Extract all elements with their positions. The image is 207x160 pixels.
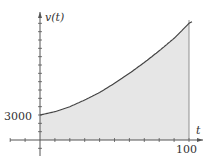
area-chart: v(t) t 3000 100 <box>0 0 207 160</box>
y-axis-label: v(t) <box>45 11 64 24</box>
y-value-label: 3000 <box>4 110 32 123</box>
x-axis-arrow-icon <box>197 138 203 142</box>
y-axis-arrow-icon <box>38 12 42 18</box>
x-value-label: 100 <box>176 143 197 156</box>
x-axis-label: t <box>196 124 201 137</box>
shaded-area <box>40 23 189 140</box>
